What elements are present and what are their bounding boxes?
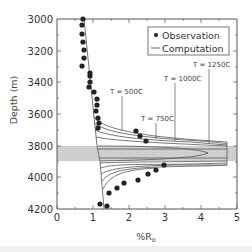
intrusion-band <box>57 146 237 161</box>
svg-text:4: 4 <box>198 212 204 223</box>
x-axis-title: %Ro <box>136 231 156 244</box>
svg-text:5: 5 <box>234 212 240 223</box>
svg-text:4000: 4000 <box>28 172 53 183</box>
svg-text:4200: 4200 <box>28 204 53 215</box>
annotation-1250c: T = 1250C <box>192 61 230 69</box>
y-axis-title: Depth (m) <box>8 76 19 125</box>
temperature-annotations: T = 500C T = 750C T = 1000C T = 1250C <box>109 61 230 123</box>
svg-text:2: 2 <box>126 212 132 223</box>
annotation-1000c: T = 1000C <box>163 75 201 83</box>
svg-text:3: 3 <box>162 212 168 223</box>
legend-computation: Computation <box>162 43 224 54</box>
bottom-strip <box>0 246 252 252</box>
svg-text:1: 1 <box>90 212 96 223</box>
annotation-750c: T = 750C <box>140 115 174 123</box>
svg-text:3800: 3800 <box>28 141 53 152</box>
svg-text:3000: 3000 <box>28 14 53 25</box>
svg-text:3200: 3200 <box>28 46 53 57</box>
annotation-500c: T = 500C <box>109 88 143 96</box>
y-tick-labels: 3000 3200 3400 3600 3800 4000 4200 <box>28 14 53 215</box>
legend-observation: Observation <box>162 30 220 41</box>
x-tick-labels: 0 1 2 3 4 5 <box>54 212 240 223</box>
vitrinite-reflectance-chart: 3000 3200 3400 3600 3800 4000 4200 0 1 2… <box>0 0 252 252</box>
svg-text:3600: 3600 <box>28 109 53 120</box>
legend-dot-icon <box>154 33 158 37</box>
svg-text:0: 0 <box>54 212 60 223</box>
legend: Observation Computation <box>148 27 229 55</box>
svg-text:3400: 3400 <box>28 77 53 88</box>
